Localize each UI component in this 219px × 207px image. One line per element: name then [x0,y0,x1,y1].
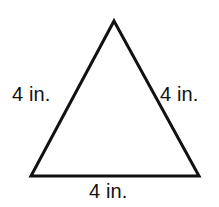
side-label-right: 4 in. [160,84,198,104]
side-label-left: 4 in. [12,84,50,104]
figure-container: 4 in. 4 in. 4 in. [0,0,219,207]
side-label-bottom: 4 in. [89,181,127,201]
